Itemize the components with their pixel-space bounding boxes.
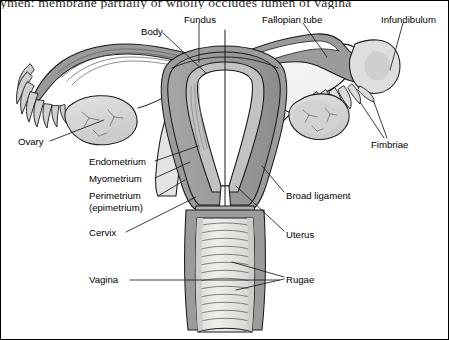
label-fundus: Fundus [184,14,216,25]
label-vagina: Vagina [89,274,118,285]
label-uterus: Uterus [286,229,314,240]
label-ovary: Ovary [18,136,44,147]
label-rugae: Rugae [286,274,314,285]
anatomy-group [16,23,403,332]
figure-canvas: ymen: membrane partially or wholly occlu… [0,0,449,340]
ovary-left [65,96,137,145]
label-cervix: Cervix [89,227,116,238]
label-myometrium: Myometrium [89,173,142,184]
label-body: Body [141,26,163,37]
label-broad-ligament: Broad ligament [286,190,351,201]
label-infundibulum: Infundibulum [381,14,436,25]
label-fallopian-tube: Fallopian tube [262,14,322,25]
label-perimetrium: Perimetrium (epimetrium) [89,190,161,213]
vagina-canal [196,218,255,332]
label-fimbriae: Fimbriae [371,139,408,150]
ovary-right [289,94,349,140]
reproductive-anatomy-illustration [0,0,449,340]
label-endometrium: Endometrium [89,156,146,167]
